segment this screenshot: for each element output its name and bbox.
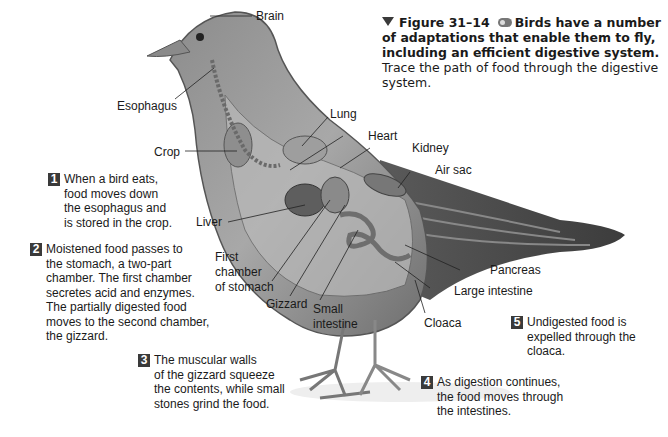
label-kidney: Kidney: [412, 141, 449, 155]
triangle-down-icon: [382, 17, 394, 26]
label-lung: Lung: [330, 107, 357, 121]
step-3-badge: 3: [138, 354, 150, 367]
step-3-text: The muscular walls of the gizzard squeez…: [138, 353, 308, 411]
step-4: 4 As digestion continues, the food moves…: [421, 375, 591, 419]
step-2-text: Moistened food passes to the stomach, a …: [30, 242, 210, 344]
label-cloaca: Cloaca: [424, 316, 461, 330]
crop-organ: [224, 123, 252, 167]
eye-icon: [498, 18, 512, 27]
liver-organ: [285, 184, 325, 216]
step-1: 1 When a bird eats, food moves down the …: [48, 172, 188, 230]
caption-plain-text: Trace the path of food through the diges…: [382, 60, 658, 90]
step-3: 3 The muscular walls of the gizzard sque…: [138, 353, 308, 411]
step-5-badge: 5: [511, 316, 523, 329]
label-liver: Liver: [196, 215, 222, 229]
lung-organ: [283, 136, 327, 164]
step-1-text: When a bird eats, food moves down the es…: [48, 172, 188, 230]
eye: [196, 33, 204, 41]
step-2: 2 Moistened food passes to the stomach, …: [30, 242, 210, 344]
bird-digestive-diagram: Brain Esophagus Crop Lung Heart Kidney A…: [0, 0, 668, 437]
label-small-intestine: Small intestine: [313, 302, 358, 332]
step-5: 5 Undigested food is expelled through th…: [511, 315, 661, 359]
step-4-text: As digestion continues, the food moves t…: [421, 375, 591, 419]
label-first-chamber: First chamber of stomach: [215, 250, 274, 295]
label-large-intestine: Large intestine: [454, 284, 533, 298]
figure-number: Figure 31–14: [399, 15, 490, 30]
label-air-sac: Air sac: [435, 163, 472, 177]
step-2-badge: 2: [30, 243, 42, 256]
label-brain: Brain: [256, 9, 284, 23]
label-gizzard: Gizzard: [266, 297, 307, 311]
step-4-badge: 4: [421, 376, 433, 389]
label-heart: Heart: [368, 129, 397, 143]
step-1-badge: 1: [48, 173, 60, 186]
label-pancreas: Pancreas: [490, 263, 541, 277]
step-5-text: Undigested food is expelled through the …: [511, 315, 661, 359]
figure-caption: Figure 31–14Birds have a number of adapt…: [382, 15, 662, 90]
label-esophagus: Esophagus: [117, 99, 177, 113]
label-crop: Crop: [154, 145, 180, 159]
gizzard-organ: [321, 177, 349, 213]
